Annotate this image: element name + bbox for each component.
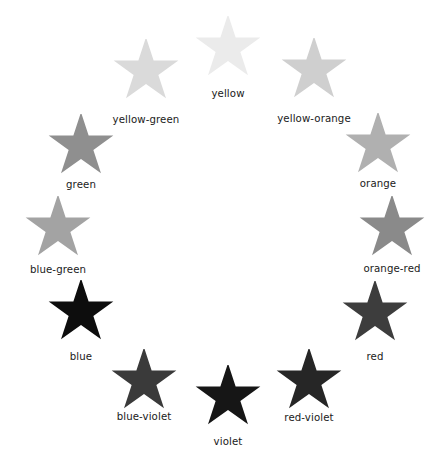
color-wheel-item-label: blue-green (0, 263, 118, 276)
five-pointed-star-icon (318, 113, 438, 177)
five-pointed-star-icon (254, 38, 374, 102)
color-wheel-item-label: orange (318, 177, 438, 190)
color-wheel-item-label: blue-violet (84, 410, 204, 423)
color-wheel-item-orange: orange (318, 113, 438, 177)
color-wheel-item-blue-green: blue-green (0, 196, 118, 260)
color-wheel-item-orange-red: orange-red (332, 196, 448, 260)
five-pointed-star-icon (315, 281, 435, 345)
color-wheel-item-red: red (315, 281, 435, 345)
color-wheel-item-label: blue (21, 350, 141, 363)
color-wheel-item-label: orange-red (332, 262, 448, 275)
five-pointed-star-icon (332, 196, 448, 260)
color-wheel-diagram: yellowyellow-orangeorangeorange-redredre… (0, 0, 448, 458)
color-wheel-item-blue: blue (21, 280, 141, 344)
five-pointed-star-icon (86, 39, 206, 103)
color-wheel-item-label: violet (168, 435, 288, 448)
color-wheel-item-yellow-green: yellow-green (86, 39, 206, 103)
color-wheel-item-label: green (21, 178, 141, 191)
color-wheel-item-label: yellow-green (86, 113, 206, 126)
five-pointed-star-icon (21, 280, 141, 344)
color-wheel-item-yellow-orange: yellow-orange (254, 38, 374, 102)
five-pointed-star-icon (0, 196, 118, 260)
